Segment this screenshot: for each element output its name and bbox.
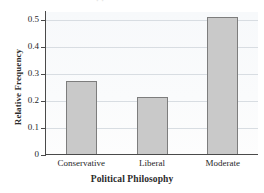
y-tick-mark-0.5 xyxy=(41,20,46,21)
y-tick-mark-0 xyxy=(41,155,46,156)
x-axis-title: Political Philosophy xyxy=(0,174,264,184)
y-tick-mark-0.1 xyxy=(41,128,46,129)
cropped-title-remnant: · · xyxy=(96,0,176,3)
plot-area xyxy=(46,12,258,155)
bar-conservative xyxy=(66,81,97,155)
bar-moderate xyxy=(207,17,238,155)
bar-liberal xyxy=(137,97,168,155)
y-tick-label-0.4: 0.4 xyxy=(12,41,39,51)
y-tick-label-0.5: 0.5 xyxy=(12,14,39,24)
y-tick-label-0.1: 0.1 xyxy=(12,122,39,132)
y-tick-label-0: 0 xyxy=(12,149,39,159)
y-tick-mark-0.3 xyxy=(41,74,46,75)
y-axis-line xyxy=(45,11,46,156)
x-axis-line xyxy=(45,154,258,155)
category-label-moderate: Moderate xyxy=(178,158,264,168)
bar-chart: · · Relative Frequency 00.10.20.30.40.5 … xyxy=(0,0,264,193)
y-tick-label-0.3: 0.3 xyxy=(12,68,39,78)
y-tick-mark-0.2 xyxy=(41,101,46,102)
y-tick-label-0.2: 0.2 xyxy=(12,95,39,105)
y-tick-mark-0.4 xyxy=(41,47,46,48)
